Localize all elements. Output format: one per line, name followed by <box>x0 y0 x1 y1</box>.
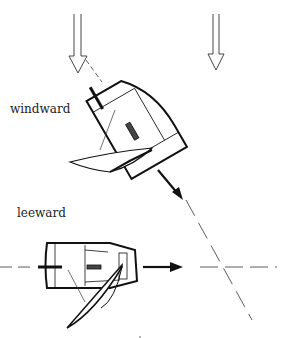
leeward-heading-arrow-icon <box>143 262 183 272</box>
windward-course-line <box>186 200 252 320</box>
wind-arrow-left-icon <box>69 14 87 73</box>
sailing-diagram <box>0 0 281 338</box>
windward-axis-line <box>86 60 102 82</box>
windward-heading-arrow-icon <box>158 170 183 200</box>
wind-arrow-right-icon <box>208 14 224 70</box>
